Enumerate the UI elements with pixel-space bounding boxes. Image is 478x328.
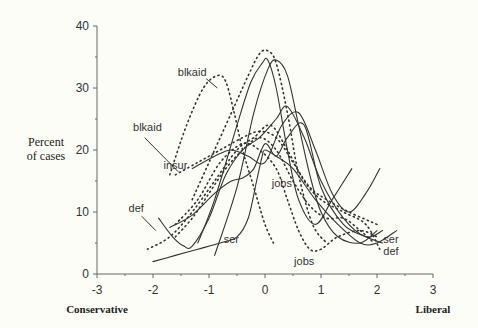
- x-tick-label: -1: [204, 283, 215, 297]
- y-axis-label-line2: of cases: [27, 149, 66, 163]
- label-jobs: jobs: [271, 177, 293, 189]
- label-blkaid: blkaid: [133, 121, 162, 133]
- y-axis: 010203040: [76, 19, 97, 281]
- x-tick-label: 3: [430, 283, 437, 297]
- label-blkaid: blkaid: [178, 66, 207, 78]
- label-def: def: [383, 245, 399, 257]
- x-tick-label: 1: [318, 283, 325, 297]
- y-tick-label: 0: [82, 267, 89, 281]
- curve-blkaid: [192, 50, 326, 243]
- label-def: def: [129, 202, 145, 214]
- label-ser: ser: [224, 233, 240, 245]
- y-tick-label: 40: [76, 19, 90, 33]
- chart-canvas: 010203040 -3-2-10123 blkaidblkaidinsurde…: [0, 0, 478, 328]
- x-axis-label-left: Conservative: [66, 303, 128, 315]
- y-tick-label: 20: [76, 143, 90, 157]
- curve-def: [159, 106, 383, 249]
- y-tick-label: 10: [76, 205, 90, 219]
- curve-ser: [153, 150, 397, 262]
- label-jobs: jobs: [293, 255, 315, 267]
- y-axis-label-line1: Percent: [28, 135, 65, 149]
- x-tick-label: -3: [92, 283, 103, 297]
- curve-jobs: [175, 143, 377, 251]
- curve-labels: blkaidblkaidinsurdefjobsserjobsserdef: [129, 66, 400, 267]
- curve-ser: [175, 138, 374, 243]
- curves: [147, 50, 396, 262]
- x-axis: -3-2-10123: [92, 274, 437, 297]
- x-tick-label: 0: [262, 283, 269, 297]
- label-ser: ser: [383, 233, 399, 245]
- y-tick-label: 30: [76, 81, 90, 95]
- x-axis-label-right: Liberal: [416, 303, 451, 315]
- x-tick-label: -2: [148, 283, 159, 297]
- x-tick-label: 2: [374, 283, 381, 297]
